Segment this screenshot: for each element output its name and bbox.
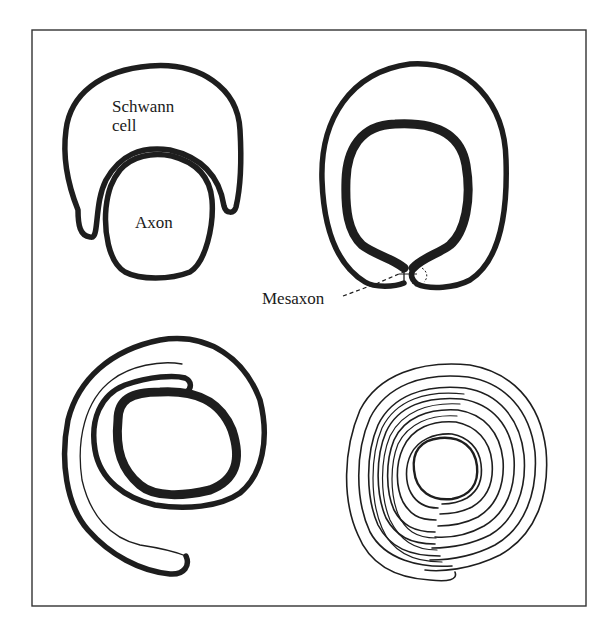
panel-stage-3 xyxy=(65,339,265,574)
myelination-figure: Schwann cell Axon Mesaxon xyxy=(0,0,605,622)
label-schwann-line1: Schwann xyxy=(112,97,175,116)
label-axon: Axon xyxy=(135,213,173,232)
figure-canvas: Schwann cell Axon Mesaxon xyxy=(0,0,605,622)
panel-stage-1: Schwann cell Axon xyxy=(65,66,241,278)
myelin-sheath-layers xyxy=(347,364,547,581)
label-schwann-line2: cell xyxy=(112,116,137,135)
panel-stage-2: Mesaxon xyxy=(262,64,506,308)
axon-spiral-inner-outline xyxy=(117,392,236,495)
axon-enclosed-outline xyxy=(346,124,468,268)
panel-stage-4 xyxy=(347,364,547,581)
label-mesaxon: Mesaxon xyxy=(262,289,325,308)
